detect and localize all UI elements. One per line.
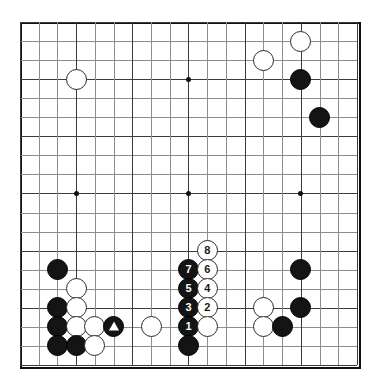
board-border [20,22,361,369]
go-diagram: 87654321 [0,0,377,390]
